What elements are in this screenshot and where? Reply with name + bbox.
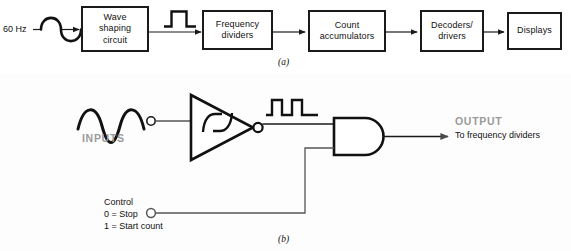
figure-canvas: Wave shaping circuit Frequency dividers … bbox=[0, 0, 571, 251]
input-terminal-node bbox=[147, 117, 155, 125]
pulse-train-icon bbox=[266, 100, 318, 115]
inputs-label: INPUTS bbox=[82, 132, 125, 144]
caption-b: (b) bbox=[278, 234, 289, 244]
inverter-bubble-icon bbox=[253, 123, 262, 132]
control-wire bbox=[156, 148, 335, 213]
control-label: Control 0 = Stop 1 = Start count bbox=[104, 196, 163, 232]
output-sub-label: To frequency dividers bbox=[455, 130, 540, 142]
schmitt-trigger-inverter-body bbox=[191, 95, 253, 160]
and-gate-body bbox=[334, 118, 384, 155]
output-label: OUTPUT bbox=[455, 115, 502, 127]
